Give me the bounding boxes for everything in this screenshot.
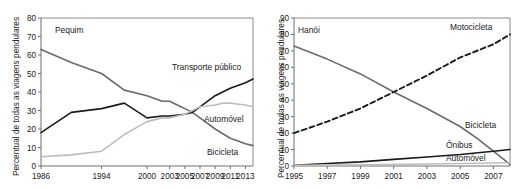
y-tick-label: 10 [27, 144, 37, 153]
series-labels-right: BicicletaMotocicletaÔnibusAutomóvel [446, 22, 497, 163]
x-tick-labels-right: 1995199719992001200320052007 [285, 172, 503, 181]
y-tick-label: 30 [280, 113, 290, 122]
y-tick-label: 40 [280, 96, 290, 105]
series-line [41, 79, 253, 133]
series-line [294, 46, 510, 164]
series-label: Automóvel [204, 114, 244, 124]
y-tick-label: 50 [280, 80, 290, 89]
plot-svg-pequim: 01020304050607080 1986199420002003200520… [0, 0, 265, 189]
y-tick-label: 80 [27, 14, 37, 23]
y-tick-label: 80 [280, 30, 290, 39]
series-lines-right [294, 34, 510, 165]
x-tick-label: 2001 [385, 172, 404, 181]
y-tick-label: 30 [27, 107, 37, 116]
axis-lines-right [294, 18, 510, 166]
series-label: Automóvel [446, 153, 486, 163]
y-tick-label: 90 [280, 14, 290, 23]
x-tick-label: 2007 [484, 172, 503, 181]
x-tick-label: 1995 [285, 172, 304, 181]
series-label: Bicicleta [465, 120, 497, 130]
series-label: Bicicleta [207, 147, 239, 157]
y-tick-label: 70 [27, 33, 37, 42]
y-tick-label: 70 [280, 47, 290, 56]
x-tick-label: 2000 [138, 172, 157, 181]
y-tick-label: 20 [27, 125, 37, 134]
y-tick-labels-left: 01020304050607080 [27, 14, 37, 171]
x-tick-label: 2013 [236, 172, 255, 181]
series-label: Transporte público [172, 62, 241, 72]
x-tick-label: 1999 [351, 172, 370, 181]
city-label-hanoi: Hanói [298, 25, 320, 35]
x-tick-label: 1986 [32, 172, 51, 181]
series-label: Ônibus [446, 140, 473, 150]
plot-svg-hanoi: 0102030405060708090 19951997199920012003… [265, 0, 531, 189]
x-tick-label: 2005 [451, 172, 470, 181]
y-tick-label: 10 [280, 146, 290, 155]
dual-line-chart-figure: Percentual de todas as viagens pendulare… [0, 0, 531, 189]
y-tick-labels-right: 0102030405060708090 [280, 14, 290, 171]
series-line [294, 34, 510, 133]
x-tick-label: 2003 [418, 172, 437, 181]
x-tick-label: 1994 [92, 172, 111, 181]
x-tick-labels-left: 198619942000200320052007200920112013 [32, 172, 255, 181]
y-tick-label: 0 [31, 162, 36, 171]
series-labels-left: BicicletaTransporte públicoAutomóvel [172, 62, 244, 157]
city-label-pequim: Pequim [55, 25, 83, 35]
chart-panel-pequim: Percentual de todas as viagens pendulare… [0, 0, 265, 189]
y-tick-label: 20 [280, 129, 290, 138]
chart-panel-hanoi: Percentual de todas as viagens pendulare… [265, 0, 531, 189]
x-tick-label: 1997 [318, 172, 337, 181]
y-tick-label: 60 [280, 63, 290, 72]
series-label: Motocicleta [450, 22, 493, 32]
y-tick-label: 60 [27, 51, 37, 60]
y-tick-label: 50 [27, 70, 37, 79]
y-tick-label: 40 [27, 88, 37, 97]
y-tick-label: 0 [284, 162, 289, 171]
